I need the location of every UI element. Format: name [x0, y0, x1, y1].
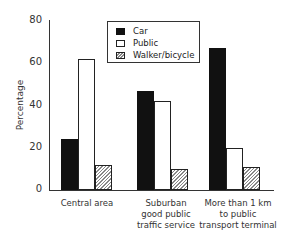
y-tick-40: 40 — [22, 99, 42, 110]
bar-public — [226, 148, 243, 190]
legend: Car Public Walker/bicycle — [107, 21, 200, 63]
public-swatch-icon — [116, 40, 125, 47]
bar-public — [78, 59, 95, 190]
bar-walk — [243, 167, 260, 190]
walker-swatch-icon — [116, 52, 125, 59]
chart: Percentage 80 60 40 20 0 Central area Su… — [0, 0, 283, 245]
y-tick-60: 60 — [22, 56, 42, 67]
legend-label: Car — [133, 26, 148, 36]
category-line: Central area — [42, 198, 132, 209]
legend-item-walker: Walker/bicycle — [116, 49, 194, 61]
y-tick-0: 0 — [22, 183, 42, 194]
category-label-central: Central area — [42, 198, 132, 209]
category-line: to public — [193, 209, 283, 220]
bar-walk — [95, 165, 112, 190]
y-tick-20: 20 — [22, 141, 42, 152]
bar-car — [137, 91, 154, 190]
category-label-far: More than 1 km to public transport termi… — [193, 198, 283, 231]
car-swatch-icon — [116, 28, 125, 35]
legend-item-car: Car — [116, 25, 148, 37]
legend-item-public: Public — [116, 37, 158, 49]
bar-car — [209, 48, 226, 190]
bar-car — [61, 139, 78, 190]
legend-label: Public — [133, 38, 158, 48]
category-line: transport terminal — [193, 220, 283, 231]
legend-label: Walker/bicycle — [133, 50, 194, 60]
y-tick-80: 80 — [22, 14, 42, 25]
bar-public — [154, 101, 171, 190]
category-line: More than 1 km — [193, 198, 283, 209]
bar-walk — [171, 169, 188, 190]
y-axis — [49, 20, 50, 191]
x-axis — [49, 190, 274, 191]
